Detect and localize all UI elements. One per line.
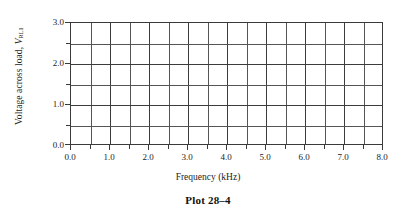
y-axis-title-text: Voltage across load, VRL1 xyxy=(14,27,24,124)
grid-line-horizontal xyxy=(71,64,382,65)
x-tick-label: 3.0 xyxy=(172,152,202,162)
y-tick-label: 2.0 xyxy=(38,59,64,68)
grid-line-horizontal xyxy=(71,105,382,106)
x-tick-mark-minor xyxy=(363,145,364,149)
x-tick-mark-minor xyxy=(90,145,91,149)
y-axis-title-subscript: RL1 xyxy=(17,27,24,38)
x-tick-mark-minor xyxy=(168,145,169,149)
x-tick-label: 4.0 xyxy=(211,152,241,162)
x-tick-mark-minor xyxy=(129,145,130,149)
x-tick-mark xyxy=(265,145,266,150)
x-tick-mark-minor xyxy=(246,145,247,149)
x-tick-mark xyxy=(304,145,305,150)
grid-line-horizontal xyxy=(71,85,382,86)
y-tick-label: 1.0 xyxy=(38,100,64,109)
y-tick-label-group: 3.0 2.0 1.0 0.0 xyxy=(36,0,64,219)
x-tick-label: 5.0 xyxy=(250,152,280,162)
y-tick-label: 0.0 xyxy=(38,141,64,150)
x-tick-label: 6.0 xyxy=(289,152,319,162)
x-tick-label: 0.0 xyxy=(55,152,85,162)
x-tick-label: 7.0 xyxy=(328,152,358,162)
y-tick-label: 3.0 xyxy=(38,18,64,27)
grid-line-horizontal xyxy=(71,44,382,45)
y-axis-title-symbol: V xyxy=(14,38,24,44)
x-tick-mark xyxy=(109,145,110,150)
x-tick-label: 2.0 xyxy=(133,152,163,162)
x-tick-mark-minor xyxy=(207,145,208,149)
x-tick-mark xyxy=(70,145,71,150)
x-axis-title: Frequency (kHz) xyxy=(0,172,416,182)
x-tick-mark xyxy=(187,145,188,150)
x-tick-label: 8.0 xyxy=(367,152,397,162)
x-tick-mark-group xyxy=(70,145,383,150)
x-tick-label: 1.0 xyxy=(94,152,124,162)
x-tick-mark xyxy=(226,145,227,150)
x-tick-mark-minor xyxy=(324,145,325,149)
x-tick-mark xyxy=(148,145,149,150)
x-tick-mark xyxy=(382,145,383,150)
grid-line-horizontal xyxy=(71,126,382,127)
plot-area xyxy=(70,22,383,145)
x-tick-label-group: 0.0 1.0 2.0 3.0 4.0 5.0 6.0 7.0 8.0 xyxy=(0,152,416,164)
x-tick-mark xyxy=(343,145,344,150)
x-tick-mark-minor xyxy=(285,145,286,149)
plot-figure: Voltage across load, VRL1 3.0 2.0 1.0 0.… xyxy=(0,0,416,219)
figure-caption: Plot 28–4 xyxy=(0,194,416,206)
y-axis-title: Voltage across load, VRL1 xyxy=(6,0,32,152)
y-axis-title-prefix: Voltage across load, xyxy=(14,44,24,125)
